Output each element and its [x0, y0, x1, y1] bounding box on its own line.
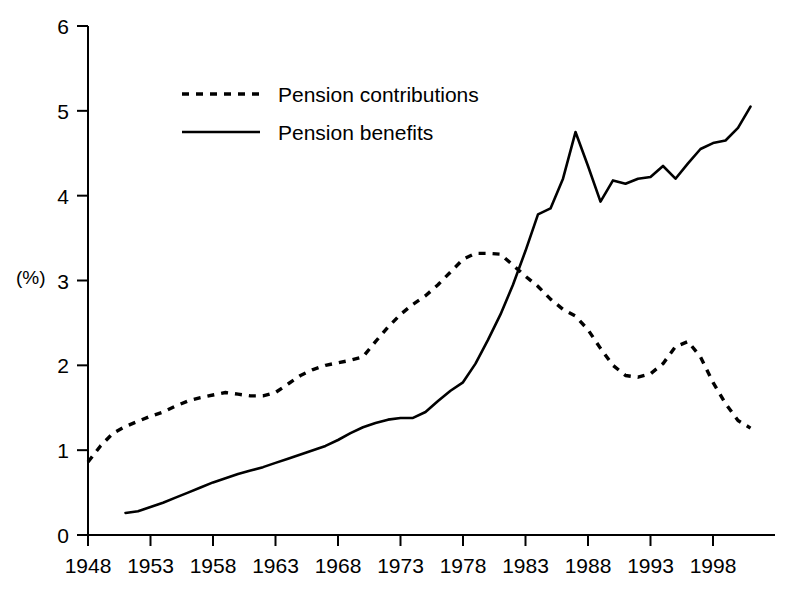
x-tick-label: 1948 [65, 554, 112, 577]
y-tick-label: 0 [57, 524, 69, 547]
y-tick-label: 3 [57, 270, 69, 293]
y-tick-label: 4 [57, 185, 69, 208]
x-tick-label: 1958 [190, 554, 237, 577]
x-tick-label: 1983 [502, 554, 549, 577]
series-line-2 [126, 107, 751, 513]
x-tick-label: 1963 [252, 554, 299, 577]
y-tick-label: 6 [57, 15, 69, 38]
line-chart: 0123456 19481953195819631968197319781983… [0, 0, 806, 592]
x-tick-label: 1998 [690, 554, 737, 577]
chart-legend: Pension contributionsPension benefits [182, 83, 479, 144]
y-tick-label: 1 [57, 439, 69, 462]
y-axis-tick-labels: 0123456 [57, 15, 69, 547]
x-tick-label: 1993 [627, 554, 674, 577]
data-series-group [88, 107, 751, 513]
x-axis-tick-labels: 1948195319581963196819731978198319881993… [65, 554, 737, 577]
legend-label: Pension contributions [278, 83, 479, 106]
y-axis-title: (%) [16, 267, 46, 288]
x-tick-label: 1978 [440, 554, 487, 577]
x-tick-label: 1953 [127, 554, 174, 577]
x-tick-label: 1973 [377, 554, 424, 577]
series-line-1 [88, 253, 751, 462]
x-tick-label: 1968 [315, 554, 362, 577]
legend-label: Pension benefits [278, 121, 433, 144]
y-tick-label: 2 [57, 354, 69, 377]
x-tick-label: 1988 [565, 554, 612, 577]
chart-container: 0123456 19481953195819631968197319781983… [0, 0, 806, 592]
y-tick-label: 5 [57, 100, 69, 123]
